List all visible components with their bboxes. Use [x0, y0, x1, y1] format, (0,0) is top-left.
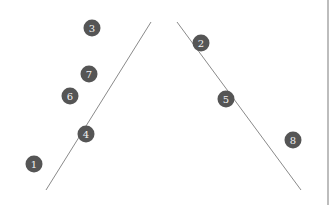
- marker-3[interactable]: 3: [84, 20, 101, 37]
- marker-label: 4: [83, 129, 89, 140]
- marker-label: 1: [31, 159, 37, 170]
- marker-2[interactable]: 2: [193, 35, 210, 52]
- marker-4[interactable]: 4: [78, 126, 95, 143]
- marker-6[interactable]: 6: [62, 88, 79, 105]
- marker-label: 8: [290, 135, 296, 146]
- lines-layer: [0, 0, 331, 211]
- diagram-canvas: 1 2 3 4 5 6 7 8: [0, 0, 331, 211]
- left-diagonal-line: [46, 22, 151, 190]
- marker-label: 6: [67, 91, 73, 102]
- marker-label: 7: [86, 69, 92, 80]
- right-edge-divider: [327, 0, 329, 205]
- marker-5[interactable]: 5: [218, 91, 235, 108]
- marker-label: 5: [223, 94, 229, 105]
- marker-label: 3: [89, 23, 95, 34]
- marker-7[interactable]: 7: [81, 66, 98, 83]
- marker-1[interactable]: 1: [26, 156, 43, 173]
- marker-8[interactable]: 8: [285, 132, 302, 149]
- marker-label: 2: [198, 38, 204, 49]
